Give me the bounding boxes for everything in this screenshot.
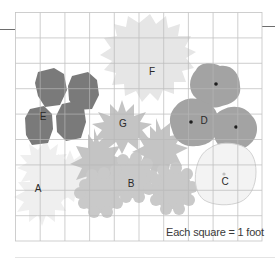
- label-plant-G: G: [119, 119, 127, 129]
- label-plant-C: C: [221, 177, 228, 187]
- label-plant-A: A: [35, 184, 42, 194]
- scale-note: Each square = 1 foot: [166, 227, 264, 238]
- plant-C: [195, 143, 256, 205]
- label-plant-F: F: [149, 67, 155, 77]
- plant-E: [25, 68, 99, 145]
- label-plant-E: E: [40, 112, 47, 122]
- label-plant-D: D: [200, 116, 207, 126]
- planting-plan: [0, 0, 275, 259]
- label-plant-B: B: [128, 179, 135, 189]
